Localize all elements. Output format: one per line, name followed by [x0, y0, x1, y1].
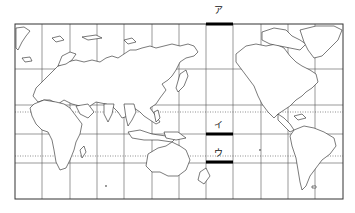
- land-greenland: [300, 26, 342, 58]
- marker-label-u: ウ: [214, 148, 223, 158]
- land-severnaya: [82, 35, 102, 40]
- markers: アイウ: [206, 5, 233, 164]
- land-africa: [30, 100, 82, 170]
- land-japan: [176, 70, 188, 92]
- land-greenland-east: [16, 27, 30, 50]
- land-south-america: [290, 126, 336, 190]
- marker-bar-u: [206, 161, 233, 164]
- land-new-zealand: [198, 168, 210, 184]
- land-north-america: [236, 44, 318, 118]
- land-australia: [146, 142, 190, 176]
- marker-bar-a: [206, 23, 233, 26]
- land-indochina: [124, 104, 136, 126]
- land-falklands: [312, 186, 316, 188]
- land-caribbean: [294, 114, 306, 120]
- land-central-america: [278, 114, 294, 132]
- world-map: アイウ: [0, 0, 355, 213]
- land-new-siberian: [124, 38, 136, 44]
- land-india: [104, 104, 114, 122]
- marker-label-i: イ: [214, 120, 223, 130]
- land-iceland: [22, 57, 32, 62]
- land-arctic-islands: [52, 36, 64, 42]
- land-arabia: [76, 104, 94, 118]
- land-indian-ocean-island: [105, 185, 106, 186]
- land-pacific-island: [259, 149, 260, 150]
- marker-label-a: ア: [214, 5, 223, 15]
- marker-bar-i: [206, 133, 233, 136]
